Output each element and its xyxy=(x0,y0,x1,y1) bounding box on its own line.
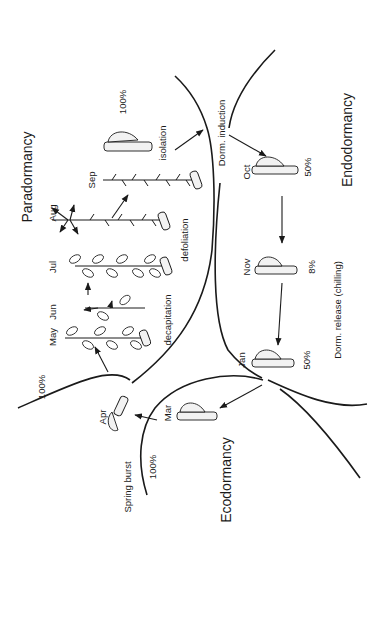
month-label-oct: Oct xyxy=(241,164,252,179)
phase-label-paradormancy: Paradormancy xyxy=(19,131,35,222)
percent-label-jan: 50% xyxy=(301,350,312,370)
shoot-may-illustration xyxy=(65,325,151,351)
percent-label-paradormancy-apr: 100% xyxy=(36,374,47,399)
percent-label-isolation: 100% xyxy=(117,89,128,114)
endodormancy-left-curve xyxy=(215,183,262,378)
treatment-label-defoliation: defoliation xyxy=(179,218,190,261)
transition-label-dorm-induction: Dorm. induction xyxy=(216,100,227,167)
month-label-jun: Jun xyxy=(47,304,58,319)
mar-to-apr-arrow xyxy=(135,415,157,420)
dormancy-cycle-diagram: Paradormancy Endodormancy Ecodormancy Do… xyxy=(0,0,379,626)
isolation-to-induction-arrow xyxy=(175,130,203,150)
shoot-jun-illustration xyxy=(84,293,145,322)
release-to-mar-arrow xyxy=(220,385,262,408)
bud-isolation-illustration xyxy=(104,132,152,151)
phase-label-ecodormancy: Ecodormancy xyxy=(218,437,234,523)
month-label-apr: Apr xyxy=(97,410,108,425)
bud-nov-illustration xyxy=(255,257,297,274)
month-label-sep: Sep xyxy=(86,172,97,189)
treatment-label-isolation: isolation xyxy=(157,126,168,161)
endodormancy-lower-curve xyxy=(268,380,367,405)
apr-to-may-arrow xyxy=(95,347,108,372)
month-label-jan: Jan xyxy=(236,352,247,367)
endodormancy-upper-curve xyxy=(229,50,275,128)
shoot-sep-illustration xyxy=(103,170,203,190)
shoot-jul-illustration xyxy=(68,253,173,279)
shoot-aug-illustration xyxy=(52,205,171,234)
month-label-aug: Aug xyxy=(47,205,58,222)
percent-label-spring-burst: 100% xyxy=(147,454,158,479)
month-label-mar: Mar xyxy=(162,405,173,421)
ecodormancy-boundary-curve xyxy=(141,376,263,495)
endodormancy-bottom-curve xyxy=(280,389,360,478)
bud-jan-illustration xyxy=(252,350,294,367)
month-label-nov: Nov xyxy=(241,258,252,275)
transition-label-spring-burst: Spring burst xyxy=(122,461,133,513)
percent-label-nov: 8% xyxy=(306,260,317,274)
aug-to-sep-arrow xyxy=(112,195,128,218)
labels: Paradormancy Endodormancy Ecodormancy Do… xyxy=(19,89,355,522)
month-label-jul: Jul xyxy=(47,261,58,273)
bud-apr-illustration xyxy=(108,395,129,430)
induction-to-oct-arrow xyxy=(229,135,266,156)
month-label-may: May xyxy=(47,328,58,346)
percent-label-oct: 50% xyxy=(302,157,313,177)
treatment-label-decapitation: decapitation xyxy=(162,294,173,345)
bud-oct-illustration xyxy=(252,157,298,174)
bud-mar-illustration xyxy=(177,403,217,420)
transition-label-dorm-release: Dorm. release (chilling) xyxy=(332,261,343,359)
nov-to-jan-arrow xyxy=(278,283,282,345)
phase-label-endodormancy: Endodormancy xyxy=(339,93,355,187)
